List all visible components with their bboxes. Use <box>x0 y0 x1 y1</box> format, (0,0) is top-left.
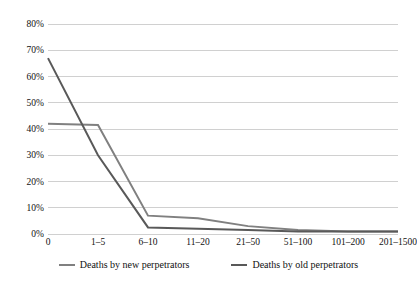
y-axis-tick-label: 10% <box>10 203 44 213</box>
legend-item[interactable]: Deaths by old perpetrators <box>231 259 358 271</box>
legend-swatch-icon <box>59 264 75 267</box>
y-axis-tick-label: 60% <box>10 72 44 82</box>
legend-label: Deaths by old perpetrators <box>252 259 358 271</box>
x-axis-tick-label: 51–100 <box>284 236 313 248</box>
y-axis-tick-label: 40% <box>10 124 44 134</box>
y-axis-tick-labels: 0%10%20%30%40%50%60%70%80% <box>8 0 44 286</box>
legend-swatch-icon <box>231 264 247 267</box>
x-axis-tick-label: 0 <box>46 236 51 248</box>
series-line-new-perpetrators <box>48 124 398 232</box>
y-axis-tick-label: 70% <box>10 45 44 55</box>
x-axis-tick-label: 21–50 <box>236 236 260 248</box>
x-axis-tick-label: 6–10 <box>139 236 158 248</box>
series-lines <box>48 58 398 231</box>
x-axis-tick-label: 101–200 <box>331 236 364 248</box>
x-axis-tick-label: 201–1500 <box>379 236 417 248</box>
legend-item[interactable]: Deaths by new perpetrators <box>59 259 190 271</box>
x-axis-tick-label: 11–20 <box>186 236 209 248</box>
line-chart: 0%10%20%30%40%50%60%70%80% 01–56–1011–20… <box>0 0 417 286</box>
y-axis-tick-label: 50% <box>10 98 44 108</box>
y-axis-tick-label: 30% <box>10 150 44 160</box>
x-axis-tick-labels: 01–56–1011–2021–5051–100101–200201–1500 <box>48 236 398 252</box>
x-axis-tick-label: 1–5 <box>91 236 105 248</box>
y-axis-tick-label: 0% <box>10 229 44 239</box>
legend-label: Deaths by new perpetrators <box>80 259 190 271</box>
series-line-old-perpetrators <box>48 58 398 231</box>
chart-legend: Deaths by new perpetratorsDeaths by old … <box>0 256 417 274</box>
y-axis-tick-label: 80% <box>10 19 44 29</box>
y-axis-tick-label: 20% <box>10 177 44 187</box>
